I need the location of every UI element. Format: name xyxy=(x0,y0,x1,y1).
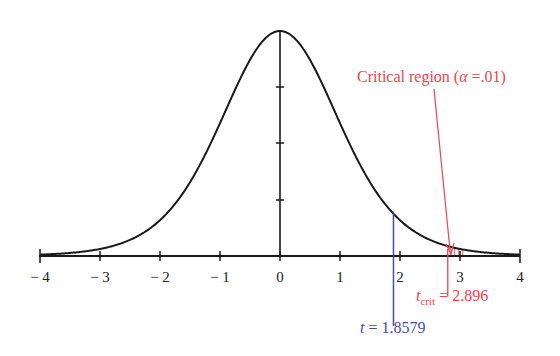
x-tick-label: − 2 xyxy=(150,269,170,285)
x-tick-label: 0 xyxy=(276,269,284,285)
x-tick-label: − 1 xyxy=(210,269,230,285)
x-tick-label: − 3 xyxy=(90,269,110,285)
x-tick-label: 4 xyxy=(516,269,524,285)
t-crit-label: tcrit = 2.896 xyxy=(416,287,488,307)
critical-region-arrow xyxy=(434,89,450,250)
observed-t-label: t = 1.8579 xyxy=(360,319,425,336)
x-tick-label: 3 xyxy=(456,269,464,285)
x-tick-label: 2 xyxy=(396,269,404,285)
x-axis-ticks: − 4− 3− 2− 101234 xyxy=(30,249,524,285)
critical-region-label: Critical region (α =.01) xyxy=(357,68,506,86)
x-tick-label: 1 xyxy=(336,269,344,285)
t-distribution-chart: − 4− 3− 2− 101234 Critical region (α =.0… xyxy=(0,0,560,356)
x-tick-label: − 4 xyxy=(30,269,50,285)
